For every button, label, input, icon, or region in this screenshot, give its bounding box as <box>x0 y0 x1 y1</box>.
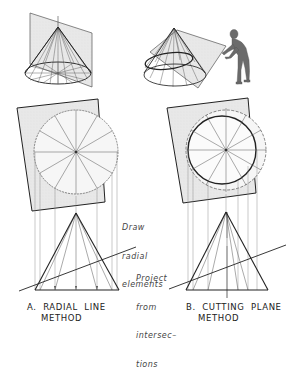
pictorial-cone-cutting-plane <box>144 28 226 88</box>
caption-a-line1: A. RADIAL LINE <box>27 302 106 312</box>
person-figure <box>222 30 250 85</box>
top-view-radial <box>17 99 118 211</box>
annotation-line: tions <box>136 360 177 370</box>
annotation-line: Draw <box>122 223 163 233</box>
annotation-line: from <box>136 303 177 313</box>
top-view-cutting-plane <box>167 98 266 203</box>
caption-b-line2: METHOD <box>198 313 239 323</box>
annotation-line: intersec– <box>136 331 177 341</box>
annotation-project-intersections: Project from intersec– tions <box>136 255 177 371</box>
caption-a-line2: METHOD <box>41 313 82 323</box>
front-view-cutting-plane <box>169 212 286 298</box>
front-view-radial <box>19 213 136 291</box>
pictorial-cone-radial <box>25 13 92 87</box>
annotation-line: Project <box>136 274 177 284</box>
caption-b-line1: B. CUTTING PLANE <box>186 302 282 312</box>
